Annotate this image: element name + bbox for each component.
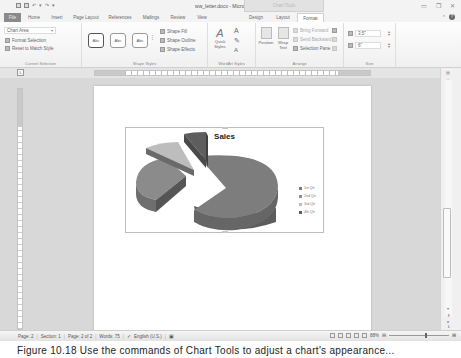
- format-selection-icon: [5, 38, 10, 43]
- draft-view-button[interactable]: [362, 333, 367, 338]
- legend-label: 1st Qtr: [304, 186, 315, 190]
- chart-legend[interactable]: 1st Qtr 2nd Qtr 3rd Qtr 4th Qtr: [299, 184, 316, 216]
- tab-review[interactable]: Review: [166, 13, 190, 22]
- status-page-of[interactable]: Page: 2 of 2: [68, 334, 92, 339]
- help-area: ⌃ ?: [442, 14, 455, 20]
- tab-page-layout[interactable]: Page Layout: [70, 13, 102, 22]
- selection-pane-button[interactable]: Selection Pane: [293, 46, 330, 51]
- send-backward-button[interactable]: Send Backward: [293, 37, 332, 42]
- legend-label: 3rd Qtr: [304, 202, 315, 206]
- group-current-selection: Chart Area ▾ Format Selection Reset to M…: [0, 23, 82, 67]
- scroll-down-icon[interactable]: ▾: [445, 306, 451, 311]
- group-label: Shape Styles: [82, 61, 207, 66]
- shape-fill-button[interactable]: Shape Fill: [160, 29, 187, 34]
- position-button[interactable]: Position: [258, 27, 274, 45]
- status-items: Page: 2 | Section: 1 | Page: 2 of 2 | Wo…: [18, 334, 174, 339]
- zoom-slider[interactable]: [389, 333, 449, 338]
- scroll-track[interactable]: [445, 80, 452, 316]
- macro-recording-icon[interactable]: ▣: [169, 334, 174, 339]
- status-language[interactable]: English (U.S.): [134, 334, 162, 339]
- shape-styles-more-icon[interactable]: ⋮: [150, 35, 155, 40]
- height-value[interactable]: 3.5": [355, 30, 381, 37]
- format-selection-button[interactable]: Format Selection: [5, 38, 46, 43]
- legend-swatch: [299, 203, 302, 206]
- tab-selector-button[interactable]: L: [17, 69, 24, 76]
- chart-elements-dropdown[interactable]: Chart Area ▾: [4, 27, 56, 34]
- restore-icon[interactable]: ❐: [436, 3, 441, 9]
- shape-style-1[interactable]: Abc: [88, 33, 104, 48]
- bring-forward-button[interactable]: Bring Forward: [293, 28, 328, 33]
- selection-pane-icon: [293, 46, 298, 51]
- reset-to-match-style-button[interactable]: Reset to Match Style: [5, 46, 54, 51]
- tab-insert[interactable]: Insert: [47, 13, 67, 22]
- width-spinner[interactable]: ▴▾: [388, 42, 390, 48]
- text-effects-icon[interactable]: A: [234, 47, 238, 53]
- scroll-thumb[interactable]: [443, 208, 451, 278]
- status-words[interactable]: Words: 75: [99, 334, 119, 339]
- print-layout-view-button[interactable]: [330, 333, 335, 338]
- selection-pane-label: Selection Pane: [300, 46, 330, 51]
- width-icon: [348, 43, 353, 48]
- format-selection-label: Format Selection: [12, 38, 46, 43]
- reset-style-icon: [5, 46, 10, 51]
- wrap-text-button[interactable]: Wrap Text: [276, 27, 290, 50]
- group-objects-icon[interactable]: [332, 37, 337, 42]
- tab-file[interactable]: File: [4, 13, 21, 22]
- proofing-icon[interactable]: ✓: [127, 334, 131, 339]
- chart-tools-label: Chart Tools: [245, 3, 323, 8]
- text-fill-icon[interactable]: A: [234, 27, 239, 34]
- full-screen-reading-button[interactable]: [338, 333, 343, 338]
- shape-effects-button[interactable]: Shape Effects: [160, 47, 195, 52]
- quick-styles-button[interactable]: A Quick Styles: [210, 27, 230, 49]
- pie-chart[interactable]: [126, 128, 325, 234]
- shape-style-3[interactable]: Abc: [132, 33, 148, 48]
- vertical-scrollbar[interactable]: ▤ ▴ ▾ ⇞ ● ⇟: [440, 68, 461, 330]
- minimize-icon[interactable]: ▭: [421, 3, 427, 9]
- shape-width-field[interactable]: 6": [348, 42, 381, 49]
- zoom-out-icon[interactable]: ⊟: [382, 333, 386, 338]
- bring-forward-icon: [293, 28, 298, 33]
- help-icon[interactable]: ?: [449, 14, 455, 20]
- horizontal-ruler[interactable]: [94, 70, 371, 76]
- vertical-ruler[interactable]: [17, 88, 23, 330]
- legend-item-2nd-qtr: 2nd Qtr: [299, 192, 316, 200]
- tab-home[interactable]: Home: [24, 13, 44, 22]
- align-icon[interactable]: [332, 28, 337, 33]
- tab-mailings[interactable]: Mailings: [138, 13, 164, 22]
- tab-format[interactable]: Format: [297, 13, 324, 22]
- shape-style-2[interactable]: Abc: [110, 33, 126, 48]
- document-page[interactable]: Sales: [94, 86, 371, 336]
- zoom-level[interactable]: 88%: [370, 333, 379, 338]
- shape-outline-button[interactable]: Shape Outline: [160, 38, 196, 43]
- next-page-icon[interactable]: ⇟: [445, 324, 451, 329]
- view-ruler-icon[interactable]: ▤: [445, 70, 451, 75]
- chart-frame[interactable]: Sales: [125, 127, 324, 233]
- status-section[interactable]: Section: 1: [41, 334, 61, 339]
- tab-design[interactable]: Design: [244, 13, 268, 22]
- separator: |: [37, 334, 38, 339]
- outline-view-button[interactable]: [354, 333, 359, 338]
- group-label: WordArt Styles: [208, 61, 255, 66]
- shape-height-field[interactable]: 3.5": [348, 30, 381, 37]
- text-outline-icon[interactable]: ✎: [234, 37, 240, 45]
- pie-slice-1st-qtr[interactable]: [194, 155, 278, 230]
- rotate-icon[interactable]: [332, 46, 337, 51]
- minimize-ribbon-icon[interactable]: ⌃: [442, 14, 446, 20]
- zoom-in-icon[interactable]: ⊞: [452, 333, 456, 338]
- position-icon: [261, 27, 272, 39]
- window-controls: ▭ ❐ ✕: [421, 3, 455, 9]
- tab-view[interactable]: View: [192, 13, 212, 22]
- figure-caption: Figure 10.18 Use the commands of Chart T…: [17, 345, 395, 356]
- close-icon[interactable]: ✕: [450, 3, 455, 9]
- tab-layout[interactable]: Layout: [271, 13, 295, 22]
- tab-references[interactable]: References: [104, 13, 136, 22]
- chart-tools-group: Chart Tools: [244, 0, 324, 12]
- width-value[interactable]: 6": [355, 42, 381, 49]
- web-layout-button[interactable]: [346, 333, 351, 338]
- status-page[interactable]: Page: 2: [18, 334, 34, 339]
- shape-effects-icon: [160, 47, 165, 52]
- zoom-slider-knob[interactable]: [425, 333, 427, 338]
- previous-page-icon[interactable]: ⇞: [445, 313, 451, 318]
- height-spinner[interactable]: ▴▾: [388, 30, 390, 36]
- group-label: Current Selection: [0, 61, 81, 66]
